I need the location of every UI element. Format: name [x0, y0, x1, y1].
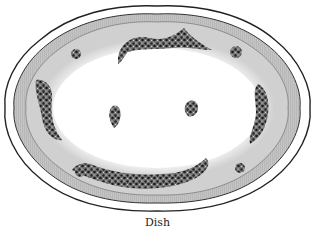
figure-caption: Dish	[0, 216, 315, 229]
dish-illustration	[0, 0, 315, 215]
dish-well	[39, 38, 275, 178]
